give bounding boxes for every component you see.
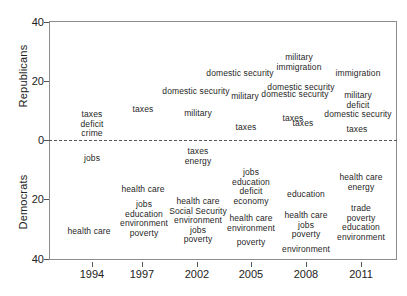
word-line: education xyxy=(287,190,325,200)
y-tick-1: 20 xyxy=(0,76,44,87)
word-label-rep-2004-a: taxes xyxy=(236,123,257,133)
word-line: health care xyxy=(121,185,164,195)
word-label-rep-2000-a: domestic security xyxy=(162,87,229,97)
x-tick-label: 2005 xyxy=(228,268,274,280)
x-tick-mark xyxy=(306,262,307,267)
x-tick-mark xyxy=(92,262,93,267)
word-line: environment xyxy=(282,245,330,255)
y-tick-label: 40 xyxy=(18,17,44,28)
word-label-dem-1997-b: jobseducationenvironmentpoverty xyxy=(120,200,168,238)
y-tick-mark xyxy=(44,199,49,200)
word-label-rep-2002-a: domestic security xyxy=(206,69,273,79)
word-label-rep-2005-a: militaryimmigration xyxy=(276,53,321,72)
word-line: taxes xyxy=(347,125,368,135)
y-tick-mark xyxy=(44,81,49,82)
word-line: energy xyxy=(185,157,212,167)
word-line: environment xyxy=(227,224,275,234)
x-tick-mark xyxy=(251,262,252,267)
scatter-word-chart: Republicans Democrats 402002040 19941997… xyxy=(0,0,407,296)
word-line: crime xyxy=(81,129,104,139)
word-line: economy xyxy=(232,197,270,207)
word-line: taxes xyxy=(133,105,154,115)
word-line: environment xyxy=(337,233,385,243)
word-line: domestic security xyxy=(206,69,273,79)
x-tick-label: 2002 xyxy=(174,268,220,280)
y-tick-label: 20 xyxy=(18,194,44,205)
word-label-dem-1997-a: health care xyxy=(121,185,164,195)
y-tick-label: 20 xyxy=(18,76,44,87)
word-line: taxes xyxy=(293,119,314,129)
word-line: military xyxy=(184,109,212,119)
word-label-rep-1994-a: taxesdeficitcrime xyxy=(81,110,104,139)
word-line: domestic security xyxy=(324,110,391,120)
word-label-dem-2002-b: health careSocial Securityenvironmentjob… xyxy=(169,197,227,245)
word-line: poverty xyxy=(169,235,227,245)
word-line: military xyxy=(231,92,259,102)
word-line: energy xyxy=(339,183,382,193)
x-tick-label: 1997 xyxy=(119,268,165,280)
word-line: jobs xyxy=(84,154,100,164)
word-line: immigration xyxy=(335,69,380,79)
word-label-rep-2011-b: militarydeficitdomestic security xyxy=(324,91,391,120)
word-line: poverty xyxy=(237,238,266,248)
word-line: immigration xyxy=(276,63,321,73)
word-label-dem-2008-a: education xyxy=(287,190,325,200)
zero-divider-line xyxy=(49,140,397,141)
word-label-dem-2008-b: health carejobspoverty xyxy=(284,211,327,240)
word-label-rep-2011-c: taxes xyxy=(347,125,368,135)
word-line: domestic security xyxy=(162,87,229,97)
y-tick-mark xyxy=(44,259,49,260)
x-tick-label: 2011 xyxy=(338,268,384,280)
word-label-dem-2005-b: health careenvironment xyxy=(227,214,275,233)
word-label-rep-2009-a: taxes xyxy=(293,119,314,129)
word-label-dem-2005-c: poverty xyxy=(237,238,266,248)
y-tick-3: 20 xyxy=(0,194,44,205)
word-label-dem-2005-a: jobseducationdeficiteconomy xyxy=(232,168,270,206)
x-tick-mark xyxy=(197,262,198,267)
word-label-rep-1997-a: taxes xyxy=(133,105,154,115)
word-label-dem-1994-b: health care xyxy=(67,227,110,237)
word-label-rep-2001-a: military xyxy=(184,109,212,119)
word-label-dem-1994-a: jobs xyxy=(84,154,100,164)
word-label-rep-2011-a: immigration xyxy=(335,69,380,79)
x-tick-label: 2008 xyxy=(283,268,329,280)
word-line: health care xyxy=(67,227,110,237)
y-tick-label: 40 xyxy=(18,254,44,265)
word-label-dem-2011-a: health careenergy xyxy=(339,173,382,192)
word-label-dem-2008-c: environment xyxy=(282,245,330,255)
y-tick-mark xyxy=(44,22,49,23)
x-tick-mark xyxy=(142,262,143,267)
word-line: taxes xyxy=(236,123,257,133)
word-label-rep-2003-a: military xyxy=(231,92,259,102)
y-tick-0: 40 xyxy=(0,17,44,28)
y-tick-4: 40 xyxy=(0,254,44,265)
y-tick-mark xyxy=(44,140,49,141)
x-tick-mark xyxy=(361,262,362,267)
word-line: poverty xyxy=(284,230,327,240)
x-tick-label: 1994 xyxy=(69,268,115,280)
word-label-dem-2002-a: taxesenergy xyxy=(185,147,212,166)
word-label-dem-2011-b: tradepovertyeducationenvironment xyxy=(337,204,385,242)
y-tick-2: 0 xyxy=(0,135,44,146)
word-line: poverty xyxy=(120,229,168,239)
y-tick-label: 0 xyxy=(18,135,44,146)
